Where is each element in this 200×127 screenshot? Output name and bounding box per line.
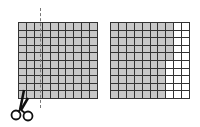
shaded-cell [135, 84, 142, 91]
grid-cell [27, 23, 34, 30]
shaded-cell [151, 31, 158, 38]
grid-cell [51, 46, 58, 53]
shaded-cell [158, 76, 165, 83]
grid-cell [74, 91, 81, 98]
shaded-cell [158, 61, 165, 68]
grid-cell [43, 84, 50, 91]
unshaded-cell [174, 76, 181, 83]
unshaded-cell [174, 69, 181, 76]
shaded-cell [158, 91, 165, 98]
grid-cell [27, 61, 34, 68]
shaded-cell [151, 38, 158, 45]
shaded-cell [151, 23, 158, 30]
shaded-cell [135, 61, 142, 68]
shaded-cell [166, 46, 173, 53]
grid-cell [82, 23, 89, 30]
grid-cell [59, 61, 66, 68]
shaded-cell [158, 46, 165, 53]
grid-cell [66, 69, 73, 76]
shaded-cell [166, 38, 173, 45]
shaded-cell [119, 38, 126, 45]
grid-cell [59, 46, 66, 53]
grid-cell [82, 91, 89, 98]
grid-cell [82, 61, 89, 68]
grid-cell [74, 69, 81, 76]
shaded-cell [119, 69, 126, 76]
shaded-cell [158, 38, 165, 45]
grid-cell [43, 61, 50, 68]
unshaded-cell [166, 61, 173, 68]
grid-cell [43, 38, 50, 45]
shaded-cell [158, 53, 165, 60]
grid-cell [82, 38, 89, 45]
grid-cell [19, 31, 26, 38]
grid-cell [27, 31, 34, 38]
shaded-cell [119, 23, 126, 30]
shaded-cell [127, 31, 134, 38]
grid-cell [51, 53, 58, 60]
shaded-cell [111, 91, 118, 98]
shaded-cell [119, 31, 126, 38]
unshaded-cell [182, 61, 189, 68]
shaded-cell [135, 53, 142, 60]
grid-cell [90, 38, 97, 45]
shaded-cell [151, 61, 158, 68]
grid-cell [82, 76, 89, 83]
shaded-cell [111, 61, 118, 68]
grid-cell [59, 23, 66, 30]
grid-cell [90, 76, 97, 83]
shaded-cell [135, 91, 142, 98]
shaded-cell [135, 38, 142, 45]
grid-cell [66, 91, 73, 98]
unshaded-cell [182, 76, 189, 83]
grid-cell [74, 84, 81, 91]
grid-cell [43, 31, 50, 38]
unshaded-cell [182, 69, 189, 76]
unshaded-cell [166, 69, 173, 76]
grid-cell [90, 91, 97, 98]
grid-cell [90, 53, 97, 60]
grid-cell [66, 53, 73, 60]
grid-cell [74, 53, 81, 60]
unshaded-cell [182, 84, 189, 91]
shaded-cell [135, 31, 142, 38]
unshaded-cell [182, 91, 189, 98]
shaded-cell [111, 46, 118, 53]
grid-cell [66, 31, 73, 38]
grid-cell [59, 76, 66, 83]
shaded-cell [127, 53, 134, 60]
shaded-cell [127, 23, 134, 30]
grid-cell [19, 61, 26, 68]
grid-cell [66, 38, 73, 45]
shaded-cell [119, 76, 126, 83]
shaded-cell [111, 69, 118, 76]
unshaded-cell [166, 91, 173, 98]
shaded-cell [143, 84, 150, 91]
shaded-cell [143, 76, 150, 83]
shaded-cell [158, 23, 165, 30]
unshaded-cell [174, 38, 181, 45]
grid-cell [43, 91, 50, 98]
grid-cell [90, 61, 97, 68]
shaded-cell [111, 53, 118, 60]
shaded-cell [127, 84, 134, 91]
grid-cell [59, 91, 66, 98]
shaded-cell [143, 31, 150, 38]
grid-cell [19, 23, 26, 30]
grid-cell [90, 46, 97, 53]
shaded-cell [111, 84, 118, 91]
unshaded-cell [182, 46, 189, 53]
shaded-cell [166, 31, 173, 38]
right-hundred-grid [110, 22, 190, 99]
unshaded-cell [174, 46, 181, 53]
grid-cell [43, 69, 50, 76]
grid-cell [74, 76, 81, 83]
grid-cell [66, 76, 73, 83]
shaded-cell [119, 84, 126, 91]
shaded-cell [119, 61, 126, 68]
shaded-cell [151, 84, 158, 91]
grid-cell [90, 23, 97, 30]
grid-cell [43, 23, 50, 30]
grid-cell [51, 69, 58, 76]
grid-cell [74, 31, 81, 38]
